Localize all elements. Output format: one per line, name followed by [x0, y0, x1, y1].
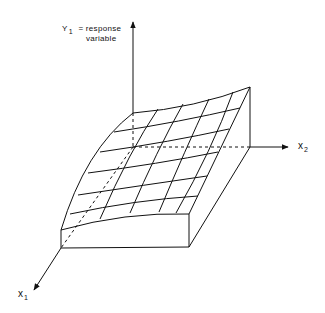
x1-axis-symbol: x	[18, 288, 23, 299]
response-surface-diagram	[0, 0, 325, 313]
response-surface	[61, 87, 250, 230]
y-axis-label: Y1 = response	[62, 25, 121, 33]
surface-block	[61, 87, 250, 248]
x2-axis-symbol: x	[298, 140, 303, 151]
x2-axis-subscript: 2	[304, 146, 308, 153]
x1-axis-label: x1	[18, 289, 28, 299]
y-axis-symbol: Y	[62, 24, 68, 33]
hidden-axis-lines	[61, 113, 250, 248]
x1-axis	[34, 248, 61, 290]
y-axis-subscript: 1	[69, 28, 73, 35]
x2-axis-label: x2	[298, 141, 308, 151]
x1-axis-subscript: 1	[24, 294, 28, 301]
y-axis-description-1: = response	[78, 24, 121, 33]
y-axis-description-2: variable	[86, 35, 116, 43]
